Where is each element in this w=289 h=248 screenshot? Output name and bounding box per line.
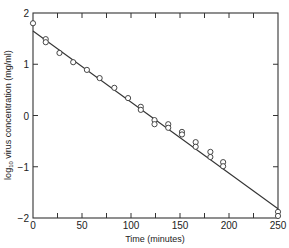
- x-tick-label: 100: [123, 220, 140, 231]
- data-point: [125, 95, 130, 100]
- data-point: [57, 50, 62, 55]
- x-axis-label: Time (minutes): [125, 234, 185, 244]
- x-tick-label: 250: [270, 220, 287, 231]
- y-axis-label: log10 virus concentration (mg/ml): [3, 50, 14, 180]
- axis-ticks: [33, 13, 278, 218]
- y-tick-label: −1: [18, 162, 30, 173]
- y-tick-label: −2: [18, 213, 30, 224]
- x-tick-label: 200: [221, 220, 238, 231]
- data-point: [112, 85, 117, 90]
- y-tick-label: 2: [23, 8, 29, 19]
- data-point: [208, 154, 213, 159]
- x-tick-label: 0: [30, 220, 36, 231]
- plot-frame: [33, 13, 278, 218]
- x-tick-label: 150: [172, 220, 189, 231]
- data-point: [43, 40, 48, 45]
- data-point: [97, 75, 102, 80]
- y-tick-labels: −2−1012: [18, 8, 30, 224]
- data-point: [30, 21, 35, 26]
- chart: 050100150200250 −2−1012 Time (minutes) l…: [0, 0, 289, 248]
- y-tick-label: 0: [23, 111, 29, 122]
- data-point: [71, 60, 76, 65]
- data-point: [138, 107, 143, 112]
- x-tick-label: 50: [76, 220, 88, 231]
- data-point: [275, 213, 280, 218]
- data-point: [208, 149, 213, 154]
- data-point: [166, 125, 171, 130]
- data-point: [193, 144, 198, 149]
- data-point: [152, 122, 157, 127]
- data-point: [84, 67, 89, 72]
- data-point: [179, 132, 184, 137]
- y-tick-label: 1: [23, 59, 29, 70]
- data-point: [221, 164, 226, 169]
- x-tick-labels: 050100150200250: [30, 220, 287, 231]
- data-points: [30, 21, 280, 219]
